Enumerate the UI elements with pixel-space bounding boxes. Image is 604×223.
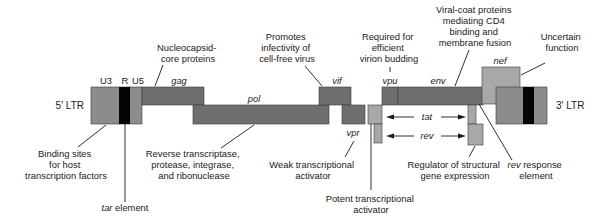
vpr-label: vpr xyxy=(346,127,360,138)
ltr-5prime-box xyxy=(91,87,142,124)
ltr-3prime: 3' LTR xyxy=(496,87,584,124)
ltr-annotation: Binding sites for host transcription fac… xyxy=(25,148,107,181)
tat-splice-arrow: tat xyxy=(386,111,466,122)
u3-label: U3 xyxy=(100,75,112,86)
r-region-5prime xyxy=(119,87,130,124)
nef-label: nef xyxy=(493,55,507,66)
env-gene xyxy=(398,87,483,105)
vpu-gene xyxy=(382,87,398,105)
gag-label: gag xyxy=(171,75,187,86)
rre-annotation: rev response element xyxy=(508,159,565,181)
tat-label: tat xyxy=(422,111,433,122)
vpr-leader xyxy=(345,141,354,157)
r-label: R xyxy=(122,75,129,86)
r-region-3prime xyxy=(523,87,534,124)
vpr-gene xyxy=(342,105,365,124)
env-label: env xyxy=(430,75,446,86)
vpu-annotation: Required for efficient virion budding xyxy=(360,31,418,64)
ltr-leader xyxy=(78,125,106,147)
rev-label: rev xyxy=(420,130,434,141)
ltr-3prime-box xyxy=(496,87,547,124)
vif-annotation: Promotes infectivity of cell-free virus xyxy=(259,31,315,64)
gag-annotation: Nucleocapsid- core proteins xyxy=(157,42,219,64)
ltr-5prime-label: 5' LTR xyxy=(56,100,84,111)
vif-label: vif xyxy=(332,75,343,86)
tat-exon-1 xyxy=(368,105,382,124)
vpu-label: vpu xyxy=(382,75,398,86)
gag-gene xyxy=(142,87,204,105)
pol-gene xyxy=(193,105,329,124)
hiv-genome-diagram: 5' LTR U3 R U5 gag pol vif vpr vpu env n… xyxy=(0,0,604,223)
tat-annotation: Potent transcriptional activator xyxy=(326,193,417,215)
nef-leader xyxy=(521,63,545,75)
env-annotation: Viral-coat proteins mediating CD4 bindin… xyxy=(436,4,514,48)
rev-annotation: Regulator of structural gene expression xyxy=(408,159,503,181)
rev-splice-arrow: rev xyxy=(386,130,466,141)
pol-annotation: Reverse transcriptase, protease, integra… xyxy=(146,148,242,181)
rev-exon-1 xyxy=(374,124,382,143)
ltr-3prime-label: 3' LTR xyxy=(556,100,584,111)
u5-label: U5 xyxy=(132,75,144,86)
pol-label: pol xyxy=(247,93,261,104)
vpr-annotation: Weak transcriptional activator xyxy=(269,159,356,181)
rev-leader xyxy=(469,146,475,157)
vif-gene xyxy=(319,87,351,105)
vif-leader xyxy=(305,66,322,86)
gag-leader xyxy=(155,65,163,86)
rev-exon-2 xyxy=(468,124,483,145)
pol-leader xyxy=(221,125,254,148)
env-leader xyxy=(455,50,469,86)
tar-annotation: tar element xyxy=(102,202,149,213)
tat-exon-2 xyxy=(468,105,476,124)
nef-annotation: Uncertain function xyxy=(541,31,584,53)
ltr-5prime: 5' LTR U3 R U5 xyxy=(56,75,144,124)
